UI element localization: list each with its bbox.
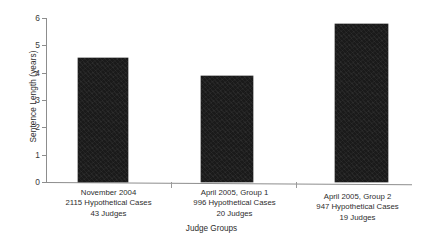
bar-november-2004[interactable] xyxy=(78,58,128,182)
category-label-line1: April 2005, Group 2 xyxy=(292,192,423,202)
category-label-line1: April 2005, Group 1 xyxy=(168,188,301,198)
category-label-april-2005-group-1: April 2005, Group 1 996 Hypothetical Cas… xyxy=(168,188,301,219)
y-tick-2 xyxy=(42,127,47,128)
category-label-line3: 19 Judges xyxy=(292,213,423,223)
x-axis-title: Judge Groups xyxy=(0,224,423,233)
category-label-line3: 43 Judges xyxy=(40,209,177,219)
y-tick-0 xyxy=(42,182,47,183)
y-tick-label-1: 1 xyxy=(18,150,40,160)
y-tick-label-5: 5 xyxy=(18,40,40,50)
y-tick-6 xyxy=(42,18,47,19)
y-tick-label-4: 4 xyxy=(18,68,40,78)
category-label-line2: 2115 Hypothetical Cases xyxy=(40,198,177,208)
category-label-group: November 2004 2115 Hypothetical Cases 43… xyxy=(40,188,423,224)
y-tick-label-2: 2 xyxy=(18,122,40,132)
category-label-april-2005-group-2: April 2005, Group 2 947 Hypothetical Cas… xyxy=(292,192,423,223)
plot-area: 6 5 4 3 2 1 0 xyxy=(46,14,412,184)
x-axis-line xyxy=(46,182,412,185)
y-tick-4 xyxy=(42,73,47,74)
category-label-line2: 947 Hypothetical Cases xyxy=(292,202,423,212)
y-tick-label-3: 3 xyxy=(18,95,40,105)
bar-chart: Sentence Length (years) 6 5 4 3 2 1 0 No… xyxy=(0,0,423,239)
bar-april-2005-group-2[interactable] xyxy=(335,24,388,182)
y-tick-label-6: 6 xyxy=(18,13,40,23)
category-label-november-2004: November 2004 2115 Hypothetical Cases 43… xyxy=(40,188,177,219)
category-label-line2: 996 Hypothetical Cases xyxy=(168,198,301,208)
y-tick-1 xyxy=(42,155,47,156)
category-label-line1: November 2004 xyxy=(40,188,177,198)
bar-april-2005-group-1[interactable] xyxy=(201,76,253,182)
y-tick-label-0: 0 xyxy=(18,177,40,187)
y-tick-5 xyxy=(42,45,47,46)
y-tick-3 xyxy=(42,100,47,101)
category-label-line3: 20 Judges xyxy=(168,209,301,219)
